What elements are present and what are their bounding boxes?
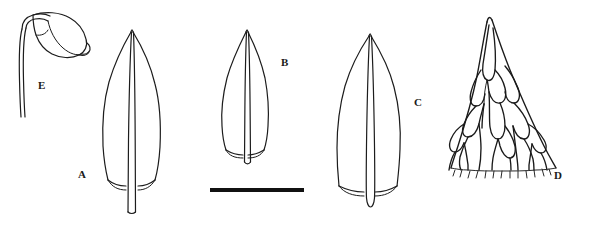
illustration-plate: A B C D E xyxy=(0,0,592,225)
figure-label-d: D xyxy=(554,170,562,181)
figure-label-a: A xyxy=(78,169,86,180)
figure-b-leaf xyxy=(222,30,269,164)
figure-e-capsule-seta xyxy=(19,13,90,117)
figure-a-leaf xyxy=(103,30,161,214)
figure-c-leaf xyxy=(337,34,400,207)
scale-bar xyxy=(210,188,304,192)
figure-label-e: E xyxy=(38,80,46,91)
figure-d-apex-cells xyxy=(449,18,556,178)
figure-label-b: B xyxy=(281,57,289,68)
figure-label-c: C xyxy=(414,97,422,108)
